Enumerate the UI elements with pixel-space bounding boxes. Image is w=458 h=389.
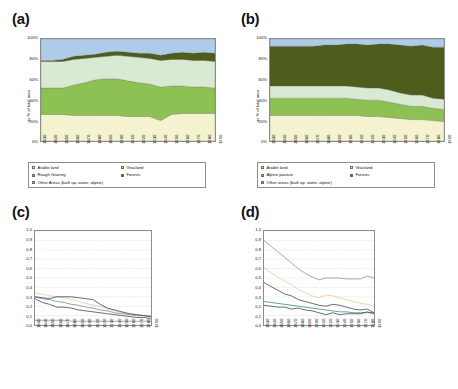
x-tick: 1840	[43, 319, 48, 328]
legend-item-forests: Forests	[350, 173, 369, 178]
x-tick: 1940	[117, 319, 122, 328]
x-tick: 1920	[370, 135, 375, 144]
panel-c-label: (c)	[12, 203, 29, 220]
x-tick: 1990	[218, 135, 223, 144]
y-tick: 0,7	[12, 256, 32, 261]
x-tick: 1890	[307, 319, 312, 328]
x-tick: 1970	[363, 319, 368, 328]
y-tick: 0,8	[241, 247, 261, 252]
swatch-grasland	[350, 166, 353, 169]
x-tick: 1970	[196, 135, 201, 144]
x-tick: 1830	[271, 135, 276, 144]
x-tick: 1950	[124, 319, 129, 328]
x-tick: 1900	[119, 135, 124, 144]
x-tick: 1960	[356, 319, 361, 328]
x-tick: 1970	[139, 319, 144, 328]
x-tick: 1910	[359, 135, 364, 144]
y-tick: 0,0	[241, 323, 261, 328]
x-tick: 1980	[146, 319, 151, 328]
x-tick: 1900	[314, 319, 319, 328]
x-tick: 1980	[370, 319, 375, 328]
x-tick: 1860	[58, 319, 63, 328]
legend-item-grasland: Grasland	[350, 166, 372, 171]
swatch-other	[32, 181, 35, 184]
x-tick: 1880	[300, 319, 305, 328]
panel-c: (c) 0,00,10,20,30,40,50,60,70,80,91,0 18…	[0, 195, 229, 389]
x-tick: 1990	[154, 319, 159, 328]
x-tick: 1960	[185, 135, 190, 144]
x-tick: 1860	[286, 319, 291, 328]
y-tick: 40%	[247, 98, 267, 103]
y-tick: 0,7	[241, 256, 261, 261]
panel-a: (a) as % of total area 0%20%40%60%80%100…	[0, 0, 229, 195]
x-tick: 1900	[348, 135, 353, 144]
panel-a-ylabel: as % of total area	[26, 90, 31, 122]
swatch-other	[261, 181, 264, 184]
y-tick: 100%	[247, 35, 267, 40]
y-tick: 0,4	[241, 285, 261, 290]
x-tick: 1880	[97, 135, 102, 144]
x-tick: 1930	[109, 319, 114, 328]
panel-a-legend: Arable land Grasland Rough Grazing Fores…	[28, 162, 206, 188]
y-tick: 0,3	[12, 295, 32, 300]
swatch-forests	[121, 174, 124, 177]
panel-b-label: (b)	[241, 10, 259, 27]
panel-d: (d) 0,00,10,20,30,40,50,60,70,80,91,0 18…	[229, 195, 458, 389]
x-tick: 1830	[42, 135, 47, 144]
x-tick: 1840	[272, 319, 277, 328]
x-tick: 1860	[304, 135, 309, 144]
x-tick: 1950	[349, 319, 354, 328]
legend-item-alpine: Alpine pasture	[261, 173, 293, 178]
x-tick: 1920	[328, 319, 333, 328]
x-tick: 1940	[392, 135, 397, 144]
y-tick: 0,5	[241, 275, 261, 280]
y-tick: 80%	[18, 56, 38, 61]
x-tick: 1930	[152, 135, 157, 144]
swatch-forests	[350, 174, 353, 177]
y-tick: 60%	[18, 77, 38, 82]
y-tick: 0%	[247, 139, 267, 144]
y-tick: 0,2	[241, 304, 261, 309]
y-tick: 0,8	[12, 247, 32, 252]
x-tick: 1950	[174, 135, 179, 144]
x-tick: 1910	[130, 135, 135, 144]
y-tick: 0,5	[12, 275, 32, 280]
y-tick: 20%	[18, 119, 38, 124]
y-tick: 0,9	[12, 237, 32, 242]
y-tick: 40%	[18, 98, 38, 103]
panel-a-label: (a)	[12, 10, 29, 27]
panel-b-areas	[270, 39, 444, 141]
x-tick: 1880	[72, 319, 77, 328]
x-tick: 1970	[425, 135, 430, 144]
x-tick: 1940	[342, 319, 347, 328]
y-tick: 0,2	[12, 304, 32, 309]
y-tick: 0,6	[241, 266, 261, 271]
x-tick: 1890	[108, 135, 113, 144]
swatch-arable	[261, 166, 264, 169]
x-tick: 1840	[53, 135, 58, 144]
x-tick: 1850	[293, 135, 298, 144]
panel-b: (b) as % of total area 0%20%40%60%80%100…	[229, 0, 458, 195]
swatch-rough	[32, 174, 35, 177]
y-tick: 0,3	[241, 295, 261, 300]
panel-a-areas	[41, 39, 215, 141]
y-tick: 0,9	[241, 237, 261, 242]
x-tick: 1910	[95, 319, 100, 328]
y-tick: 100%	[18, 35, 38, 40]
legend-item-arable: Arable land	[32, 166, 59, 171]
x-tick: 1990	[447, 135, 452, 144]
panel-c-plot	[34, 230, 152, 326]
y-tick: 0%	[18, 139, 38, 144]
panel-a-plot	[40, 38, 216, 142]
y-tick: 0,4	[12, 285, 32, 290]
x-tick: 1990	[377, 319, 382, 328]
figure-sheet: (a) as % of total area 0%20%40%60%80%100…	[0, 0, 458, 389]
x-tick: 1910	[321, 319, 326, 328]
legend-item-other: Other areas (built up, water, alpine)	[261, 181, 332, 186]
panel-d-lines	[264, 231, 374, 325]
panel-d-plot	[263, 230, 375, 326]
panel-b-ylabel: as % of total area	[255, 90, 260, 122]
legend-item-arable: Arable land	[261, 166, 288, 171]
x-tick: 1830	[36, 319, 41, 328]
legend-item-other: Other Areas (built up, water, alpine)	[32, 181, 103, 186]
